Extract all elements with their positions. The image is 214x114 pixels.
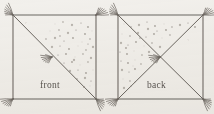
- stipple-dot: [90, 80, 91, 81]
- stipple-dot: [73, 59, 75, 61]
- stipple-dot: [78, 46, 79, 47]
- stipple-dot: [162, 38, 163, 39]
- stipple-dot: [120, 42, 122, 44]
- stipple-dot: [129, 80, 131, 82]
- stipple-dot: [144, 46, 145, 47]
- stipple-dot: [121, 69, 123, 71]
- stipple-dot: [135, 60, 136, 61]
- stipple-dot: [194, 26, 196, 28]
- stipple-dot: [58, 29, 60, 31]
- stipple-dot: [139, 37, 141, 39]
- stipple-dot: [134, 68, 136, 70]
- stipple-dot: [87, 61, 89, 63]
- stipple-dot: [123, 87, 125, 89]
- stipple-dot: [63, 40, 64, 41]
- stipple-dot: [147, 28, 149, 30]
- stipple-dot: [71, 24, 73, 26]
- stipple-dot: [128, 71, 129, 72]
- stipple-dot: [80, 65, 81, 66]
- panel-back-label: back: [147, 80, 166, 90]
- stipple-dot: [57, 54, 58, 55]
- stipple-dot: [141, 54, 143, 56]
- stipple-dot: [130, 26, 132, 28]
- stipple-dot: [137, 32, 139, 34]
- stipple-dot: [92, 31, 93, 32]
- stipple-dot: [134, 51, 135, 52]
- stipple-dot: [55, 24, 56, 25]
- stipple-dot: [82, 42, 83, 43]
- panel-front-label: front: [40, 80, 60, 90]
- stipple-dot: [59, 45, 60, 46]
- stipple-dot: [85, 49, 87, 51]
- figure-canvas: front back: [0, 0, 214, 114]
- stipple-dot: [165, 29, 167, 31]
- stipple-dot: [125, 47, 127, 49]
- stipple-dot: [123, 79, 124, 80]
- stipple-dot: [145, 36, 146, 37]
- panel-back: [105, 3, 214, 111]
- stipple-dot: [126, 53, 128, 55]
- stipple-dot: [75, 29, 76, 30]
- stipple-dot: [122, 34, 123, 35]
- stipple-dot: [75, 57, 76, 58]
- stipple-dot: [171, 26, 173, 28]
- stipple-dot: [87, 43, 88, 44]
- stipple-dot: [68, 48, 70, 50]
- stipple-dot: [133, 66, 134, 67]
- panel-front: [0, 3, 108, 111]
- stipple-dot: [63, 62, 64, 63]
- stipple-dot: [169, 34, 171, 36]
- stipple-dot: [59, 35, 61, 37]
- stipple-dot: [84, 33, 86, 35]
- stipple-dot: [54, 37, 56, 39]
- stipple-dot: [90, 57, 92, 59]
- stipple-dot: [156, 30, 157, 31]
- stipple-dot: [87, 26, 89, 28]
- stipple-dot: [148, 51, 150, 53]
- stipple-dot: [77, 69, 78, 70]
- stipple-dot: [93, 70, 94, 71]
- stipple-dot: [127, 62, 129, 64]
- stipple-dot: [124, 24, 125, 25]
- stipple-dot: [187, 22, 188, 23]
- stipple-dot: [127, 44, 128, 45]
- stipple-dot: [90, 86, 91, 87]
- stipple-dot: [69, 70, 71, 72]
- stipple-dot: [138, 24, 140, 26]
- stipple-dot: [71, 61, 73, 63]
- stipple-dot: [51, 46, 53, 48]
- stipple-dot: [146, 21, 147, 22]
- stipple-dot: [50, 31, 51, 32]
- stipple-dot: [45, 38, 47, 40]
- stipple-dot: [80, 22, 81, 23]
- stipple-dot: [76, 78, 78, 80]
- stipple-dot: [85, 72, 87, 74]
- stipple-dot: [119, 51, 120, 52]
- stipple-dot: [154, 25, 156, 27]
- stipple-dot: [67, 32, 69, 34]
- stipple-dot: [120, 60, 121, 61]
- panel-back-stipple: [119, 21, 196, 89]
- stipple-dot: [164, 24, 165, 25]
- stipple-dot: [151, 42, 153, 44]
- stipple-dot: [153, 33, 155, 35]
- stipple-dot: [62, 21, 64, 23]
- stipple-dot: [83, 86, 85, 88]
- stipple-dot: [72, 37, 74, 39]
- stipple-dot: [129, 35, 131, 37]
- stipple-dot: [65, 53, 67, 55]
- stipple-dot: [92, 46, 94, 48]
- stipple-dot: [82, 53, 84, 55]
- stipple-dot: [140, 63, 142, 65]
- stipple-dot: [179, 24, 181, 26]
- stipple-dot: [159, 46, 161, 48]
- stipple-dot: [130, 85, 131, 86]
- stipple-dot: [135, 41, 137, 43]
- tent-panel-diagram-svg: front back: [0, 0, 214, 114]
- stipple-dot: [89, 38, 91, 40]
- stipple-dot: [84, 77, 86, 79]
